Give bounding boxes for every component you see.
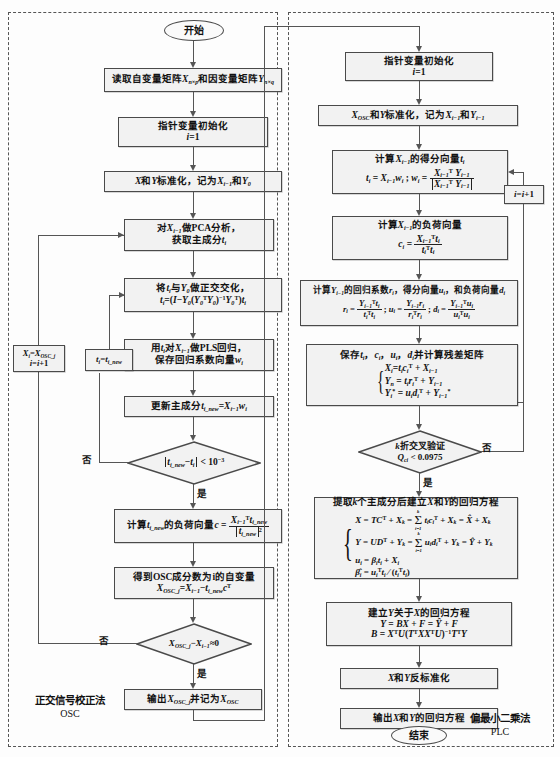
osc-caption: 正交信号校正法 OSC: [18, 694, 122, 721]
conn-dec1-no-h: [99, 462, 128, 463]
osc-init-pointer-box: 指针变量初始化 i=1: [118, 117, 268, 147]
osc-component-line2: XOSC_j=Xi−1−ti_newcT: [157, 583, 231, 593]
osc-orthogonalize-box: 将ti与Y0做正交交化， ti=(I−Y0(Y0TY0)−1Y0T)ti: [124, 278, 282, 312]
pls-increment-box: i=i+1: [504, 185, 544, 204]
osc-dec1-yes-label: 是: [197, 486, 207, 500]
pls-save-eq3: Yi* = uidiT + Yi−1*: [385, 388, 451, 401]
osc-output-label: 输出XOSC_j并记为XOSC: [128, 694, 258, 706]
pls-regcoef-line1: 计算Yi−1的回归系数ri，得分向量ui，和负荷向量di: [313, 285, 505, 295]
pls-cv-yes-label: 是: [423, 475, 433, 489]
pls-save-title: 保存ti，ci，ui，di并计算残差矩阵: [340, 350, 484, 360]
pls-final-eq4: β̂i = uiTti ⁄ (tiTti): [355, 566, 492, 578]
conn-cv-yes: [419, 473, 420, 493]
flowchart-canvas: 开始 读取自变量矩阵Xn×p和因变量矩阵Yn×q 指针变量初始化 i=1 X和Y…: [0, 0, 560, 757]
pls-score-vector-box: 计算Xi−1的得分向量ti ti = Xi−1wi ; wi = Xi−1T Y…: [332, 150, 508, 194]
osc-loading-vector-box: 计算ti_new的负荷向量c = Xi−1Tti_new ti_new2: [114, 509, 282, 543]
pls-standardize-box: XOSC和Y标准化，记为Xi−1和Yi−1: [318, 105, 518, 126]
pls-cv-line2: Qci < 0.0975: [397, 452, 442, 462]
pls-final-eq1: X = TCT + Xk = kΣi=1 ticiT + Xk = X̂ + X…: [355, 509, 492, 531]
osc-update-component-box: 更新主成分ti_new=Xi−1wi: [124, 396, 274, 417]
conn-read-init: [193, 92, 194, 113]
arrow-loopback-x: [118, 232, 124, 238]
pls-y-on-x-box: 建立Y关于X的回归方程 Y = BX + F = Ŷ + F B = XTU(…: [326, 602, 512, 646]
conn-pca-orth: [193, 251, 194, 274]
bridge-v2: [264, 26, 265, 721]
osc-pca-line1: 对Xi−1做PCA分析，: [157, 223, 241, 233]
osc-init-pointer-line2: i=1: [187, 132, 200, 142]
pls-cv-line1: k折交叉验证: [395, 441, 445, 451]
osc-start-terminal: 开始: [164, 20, 224, 41]
osc-update-component-label: 更新主成分ti_new=Xi−1wi: [128, 401, 270, 413]
pls-caption: 偏最小二乘法 PLC: [452, 712, 548, 739]
osc-pca-line2: 获取主成分ti: [172, 235, 226, 245]
pls-score-line1: 计算Xi−1的得分向量ti: [375, 154, 464, 164]
pls-score-line2: ti = Xi−1wi ; wi = Xi−1T Yi−1 Xi−1T Yi−1: [366, 168, 474, 191]
pls-end-terminal: 结束: [391, 726, 447, 745]
osc-caption-sub: OSC: [60, 708, 79, 719]
osc-decision-converge: ti_new−ti < 10−3: [127, 441, 261, 485]
conn-std-pca: [193, 192, 194, 215]
osc-loopback-t-box: ti=ti_new: [85, 349, 133, 371]
conn-save-cv: [419, 406, 420, 426]
conn-osc-start-read: [193, 41, 194, 64]
pls-init-pointer-line1: 指针变量初始化: [384, 56, 454, 66]
conn-init-std: [193, 147, 194, 167]
pls-caption-title: 偏最小二乘法: [470, 713, 530, 724]
osc-loopback-x-box: Xi=XOSC_j i=i+1: [13, 345, 65, 372]
osc-standardize-box: X和Y标准化，记为Xi−1和Y0: [104, 171, 282, 192]
pls-save-eq1: Xi=ticiT + Xi−1: [385, 362, 451, 375]
osc-component-box: 得到OSC成分数为i的自变量 XOSC_j=Xi−1−ti_newcT: [114, 567, 274, 599]
pls-final-eq3: ui = βiti + Xi: [355, 554, 492, 566]
pls-end-label: 结束: [395, 730, 443, 742]
pls-final-eq2: Y = UDT + Yk = kΣi=1 uidiT + Yk = Ŷ + Y…: [355, 532, 492, 554]
bridge-v3: [419, 26, 420, 48]
osc-read-matrices-label: 读取自变量矩阵Xn×p和因变量矩阵Yn×q: [108, 74, 278, 86]
pls-regcoef-line2: ri = Yi−1TtitiTti ; ui = Yi−1ririTri ; d…: [343, 299, 475, 321]
osc-caption-title: 正交信号校正法: [35, 695, 105, 706]
conn-dec1-no-v: [99, 373, 100, 463]
conn-loopback-x-h: [38, 235, 124, 236]
pls-yonx-eq2: B = XTU(TTXXTU)−1TTY: [371, 629, 467, 639]
osc-decision-converged-x: XOSC_j−Xi−1≈0: [136, 623, 252, 665]
osc-pca-box: 对Xi−1做PCA分析， 获取主成分ti: [124, 219, 274, 251]
pls-caption-sub: PLC: [491, 726, 509, 737]
conn-loopback-t-up: [109, 295, 110, 349]
osc-decision-converge-label: ti_new−ti < 10−3: [127, 457, 261, 469]
pls-init-pointer-line2: i=1: [413, 67, 426, 77]
osc-dec1-no-label: 否: [82, 452, 92, 466]
conn-inc-down: [523, 204, 524, 403]
osc-standardize-label: X和Y标准化，记为Xi−1和Y0: [108, 176, 278, 188]
osc-init-pointer-line1: 指针变量初始化: [158, 121, 228, 131]
arrow-inc-to-score: [508, 169, 514, 175]
pls-init-pointer-box: 指针变量初始化 i=1: [345, 52, 493, 81]
osc-plsreg-line2: 保存回归系数向量wi: [155, 355, 243, 365]
bridge-h2: [264, 26, 420, 27]
conn-dec2-yes: [193, 664, 194, 685]
conn-loopback-x-up: [38, 235, 39, 345]
pls-standardize-label: XOSC和Y标准化，记为Xi−1和Yi−1: [322, 110, 514, 122]
pls-destandardize-label: X和Y反标准化: [344, 673, 494, 684]
pls-save-residual-box: 保存ti，ci，ui，di并计算残差矩阵 { Xi=ticiT + Xi−1 Y…: [306, 344, 518, 406]
conn-inc-up: [523, 172, 524, 186]
pls-save-eq2: Yn = tiriT + Yi−1: [385, 375, 451, 388]
pls-yonx-title: 建立Y关于X的回归方程: [368, 608, 470, 618]
pls-final-title: 提取k个主成分后建立X和Y的回归方程: [333, 497, 500, 507]
pls-decision-cv-label: k折交叉验证 Qci < 0.0975: [358, 441, 482, 463]
pls-loading-line2: ci = Xi−1Tti tiTti: [398, 234, 441, 257]
pls-cv-no-label: 否: [482, 440, 492, 454]
osc-plsreg-line1: 用ti对Xi−1做PLS回归，: [151, 343, 248, 353]
pls-yonx-eq1: Y = BX + F = Ŷ + F: [380, 619, 458, 629]
osc-loading-vector-label: 计算ti_new的负荷向量c = Xi−1Tti_new ti_new2: [118, 515, 278, 538]
conn-dec2-no-v: [38, 372, 39, 644]
conn-plsstd-score: [419, 126, 420, 146]
osc-loopback-t-label: ti=ti_new: [89, 354, 129, 365]
pls-loading-vector-box: 计算Xi−1的负荷向量 ci = Xi−1Tti tiTti: [332, 216, 508, 260]
osc-orth-line1: 将ti与Y0做正交交化，: [156, 283, 249, 293]
conn-dec2-no-h: [38, 643, 137, 644]
conn-inc-to-score: [514, 172, 524, 173]
osc-loopback-x-line1: Xi=XOSC_j: [23, 348, 56, 358]
osc-component-line1: 得到OSC成分数为i的自变量: [133, 572, 255, 582]
osc-plsreg-box: 用ti对Xi−1做PLS回归， 保存回归系数向量wi: [124, 339, 274, 371]
brace-glyph-2: {: [343, 531, 353, 558]
bridge-h1: [193, 720, 265, 721]
